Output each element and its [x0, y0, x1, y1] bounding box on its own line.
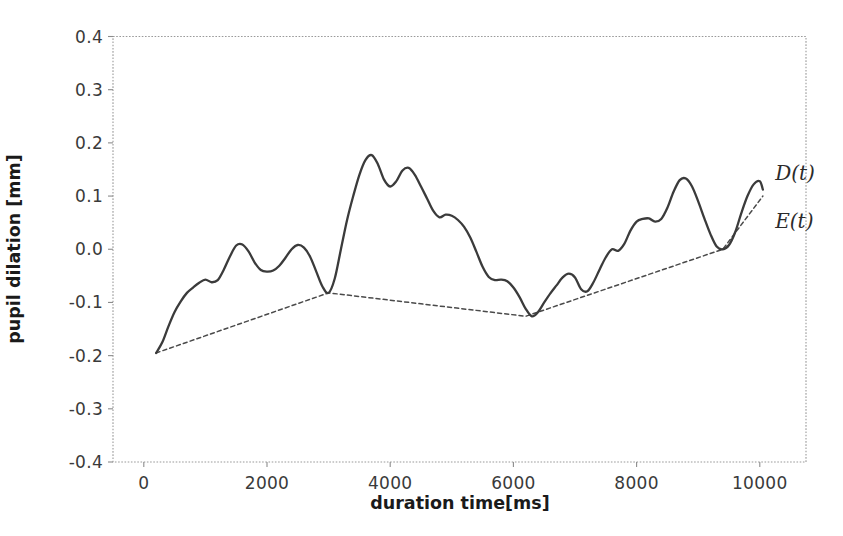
x-tick-label: 2000: [245, 473, 289, 493]
series-line-e: [156, 196, 763, 353]
series-annotation-d: D(t): [775, 161, 815, 185]
y-tick-label: -0.1: [69, 292, 103, 312]
y-tick-marks: [108, 37, 113, 463]
x-tick-label: 4000: [368, 473, 412, 493]
x-tick-marks: [144, 462, 760, 467]
plot-canvas: [0, 0, 843, 536]
y-tick-label: 0.4: [75, 27, 103, 47]
chart-figure: -0.4-0.3-0.2-0.10.00.10.20.30.4 02000400…: [0, 0, 843, 536]
y-tick-label: 0.0: [75, 239, 103, 259]
x-axis-title: duration time[ms]: [370, 493, 549, 513]
x-tick-label: 6000: [491, 473, 535, 493]
series-annotation-e: E(t): [775, 209, 813, 233]
series-line-d: [156, 155, 763, 353]
x-tick-label: 8000: [614, 473, 658, 493]
y-tick-label: -0.2: [69, 346, 103, 366]
y-tick-label: 0.3: [75, 80, 103, 100]
axes-spines: [113, 37, 806, 463]
y-tick-label: -0.4: [69, 452, 103, 472]
x-tick-label: 10000: [732, 473, 788, 493]
x-tick-label: 0: [138, 473, 149, 493]
plot-frame: [113, 37, 806, 463]
y-tick-label: 0.2: [75, 133, 103, 153]
y-tick-label: -0.3: [69, 399, 103, 419]
y-tick-label: 0.1: [75, 186, 103, 206]
y-axis-title: pupil dilation [mm]: [4, 154, 24, 343]
